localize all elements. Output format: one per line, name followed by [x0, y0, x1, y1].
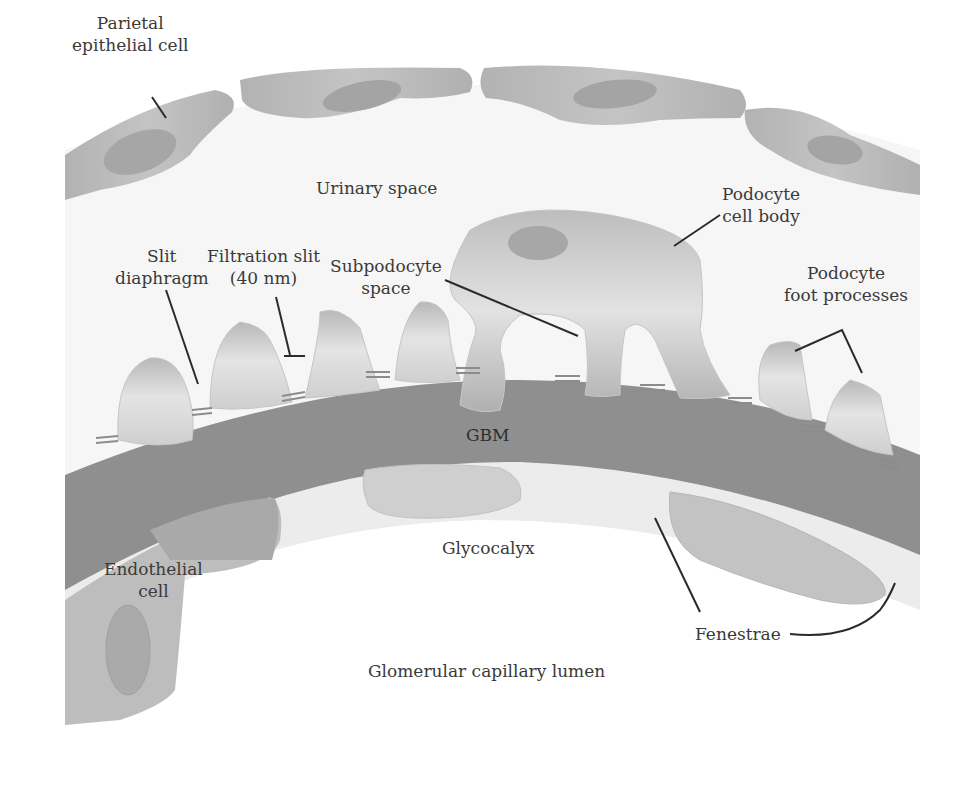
label-fenestrae: Fenestrae [695, 623, 781, 645]
label-podocyte-cell-body: Podocyte cell body [722, 183, 800, 227]
glomerular-barrier-diagram: Parietal epithelial cell Urinary space P… [0, 0, 973, 798]
label-subpodocyte-space: Subpodocyte space [330, 255, 442, 299]
label-endothelial-cell: Endothelial cell [104, 558, 203, 602]
fenestra-pad-center [363, 464, 521, 518]
label-filtration-slit: Filtration slit (40 nm) [207, 245, 320, 289]
label-slit-diaphragm: Slit diaphragm [115, 245, 209, 289]
label-glycocalyx: Glycocalyx [442, 537, 535, 559]
label-podocyte-foot-processes: Podocyte foot processes [784, 262, 908, 306]
label-gbm: GBM [466, 424, 509, 446]
label-parietal-epithelial-cell: Parietal epithelial cell [72, 12, 189, 56]
label-urinary-space: Urinary space [316, 177, 437, 199]
label-glomerular-capillary-lumen: Glomerular capillary lumen [368, 660, 605, 682]
